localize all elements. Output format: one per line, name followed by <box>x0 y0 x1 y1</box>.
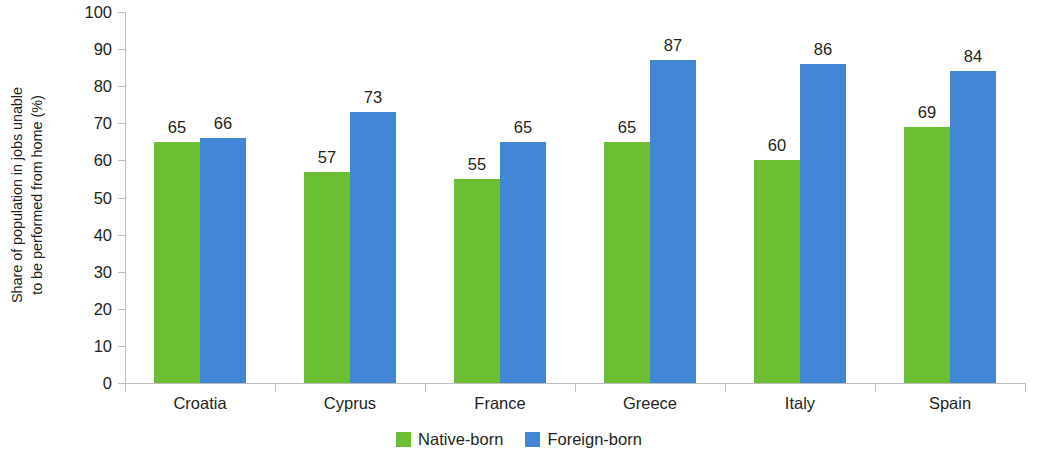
y-axis-tick-label: 70 <box>62 114 112 133</box>
bar-pair: 6587 <box>604 12 696 383</box>
bar-group: 6984 <box>875 12 1025 383</box>
y-axis-tick-label: 60 <box>62 151 112 170</box>
bar-value-label: 60 <box>768 136 786 155</box>
legend-item[interactable]: Native-born <box>396 430 503 449</box>
bar-value-label: 55 <box>468 155 486 174</box>
bar-native-born[interactable]: 55 <box>454 179 500 383</box>
x-axis-category-label: Spain <box>875 394 1025 413</box>
legend-swatch-icon <box>525 432 540 447</box>
x-axis-separator <box>275 383 276 392</box>
legend-item[interactable]: Foreign-born <box>525 430 641 449</box>
x-axis-category-label: Cyprus <box>275 394 425 413</box>
y-axis-title-line1: Share of population in jobs unable <box>8 87 28 303</box>
bar-group: 6566 <box>125 12 275 383</box>
grouped-bar-chart: Share of population in jobs unable to be… <box>0 0 1038 461</box>
x-axis-category-label: Croatia <box>125 394 275 413</box>
bar-pair: 6566 <box>154 12 246 383</box>
chart-legend: Native-bornForeign-born <box>0 430 1038 449</box>
bar-value-label: 66 <box>214 114 232 133</box>
x-axis-separator <box>575 383 576 392</box>
x-axis-separator <box>875 383 876 392</box>
bar-native-born[interactable]: 57 <box>304 172 350 383</box>
x-axis-separator <box>725 383 726 392</box>
x-axis-category-labels: CroatiaCyprusFranceGreeceItalySpain <box>125 394 1025 413</box>
x-axis-category-label: France <box>425 394 575 413</box>
y-axis-tick-label: 10 <box>62 336 112 355</box>
bar-group: 6086 <box>725 12 875 383</box>
x-axis-separator <box>425 383 426 392</box>
y-axis-tick-label: 20 <box>62 299 112 318</box>
x-axis-separator <box>125 383 126 392</box>
x-axis-separator <box>1025 383 1026 392</box>
legend-label: Foreign-born <box>547 430 641 449</box>
bar-foreign-born[interactable]: 73 <box>350 112 396 383</box>
y-axis-tick-label: 50 <box>62 188 112 207</box>
bar-native-born[interactable]: 65 <box>604 142 650 383</box>
bar-foreign-born[interactable]: 87 <box>650 60 696 383</box>
bar-value-label: 69 <box>918 103 936 122</box>
legend-swatch-icon <box>396 432 411 447</box>
bar-value-label: 65 <box>168 118 186 137</box>
bar-foreign-born[interactable]: 86 <box>800 64 846 383</box>
bar-value-label: 65 <box>618 118 636 137</box>
bar-value-label: 65 <box>514 118 532 137</box>
bar-value-label: 87 <box>664 36 682 55</box>
y-axis-tick-label: 40 <box>62 225 112 244</box>
bar-value-label: 73 <box>364 88 382 107</box>
bar-value-label: 57 <box>318 148 336 167</box>
y-axis-title-line2: to be performed from home (%) <box>28 87 48 303</box>
y-axis-tick-label: 90 <box>62 40 112 59</box>
y-axis-tick-label: 100 <box>62 3 112 22</box>
x-axis-category-label: Greece <box>575 394 725 413</box>
x-axis-category-label: Italy <box>725 394 875 413</box>
bar-foreign-born[interactable]: 65 <box>500 142 546 383</box>
bar-groups: 656657735565658760866984 <box>125 12 1025 383</box>
bar-pair: 5565 <box>454 12 546 383</box>
bar-native-born[interactable]: 65 <box>154 142 200 383</box>
bar-pair: 5773 <box>304 12 396 383</box>
y-axis-title: Share of population in jobs unable to be… <box>0 0 56 390</box>
y-axis-tick-label: 30 <box>62 262 112 281</box>
bar-native-born[interactable]: 69 <box>904 127 950 383</box>
bar-pair: 6086 <box>754 12 846 383</box>
bar-group: 5565 <box>425 12 575 383</box>
legend-label: Native-born <box>418 430 503 449</box>
bar-pair: 6984 <box>904 12 996 383</box>
bar-group: 5773 <box>275 12 425 383</box>
bar-native-born[interactable]: 60 <box>754 160 800 383</box>
bar-foreign-born[interactable]: 84 <box>950 71 996 383</box>
bar-value-label: 84 <box>964 47 982 66</box>
y-axis-tick-label: 0 <box>62 374 112 393</box>
bar-value-label: 86 <box>814 40 832 59</box>
bar-group: 6587 <box>575 12 725 383</box>
y-axis-tick-labels: 0102030405060708090100 <box>60 0 112 461</box>
bar-foreign-born[interactable]: 66 <box>200 138 246 383</box>
y-axis-tick-label: 80 <box>62 77 112 96</box>
